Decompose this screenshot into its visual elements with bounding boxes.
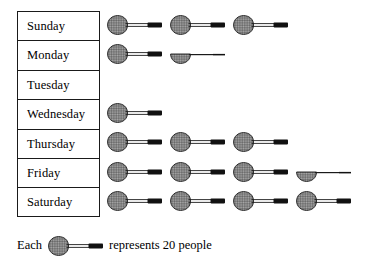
pictograph-row: Monday: [17, 40, 364, 69]
tennis-racket-icon: [106, 15, 169, 37]
pictograph-row: Sunday: [17, 11, 364, 40]
day-label-cell: Wednesday: [17, 99, 100, 128]
day-label-cell: Sunday: [17, 11, 100, 40]
tennis-racket-icon: [169, 162, 232, 184]
tennis-racket-icon: [232, 132, 295, 154]
day-label: Thursday: [27, 138, 75, 151]
tennis-racket-icon: [232, 191, 295, 213]
pictograph-row: Friday: [17, 158, 364, 187]
legend-prefix-text: Each: [17, 239, 42, 252]
tennis-racket-half-icon: [295, 162, 358, 184]
tennis-racket-icon: [106, 44, 169, 66]
tennis-racket-icon: [295, 191, 358, 213]
day-label-cell: Friday: [17, 158, 100, 187]
racket-icon-group: [100, 11, 364, 40]
chart-legend: Each represents 20 people: [17, 236, 212, 254]
day-label: Sunday: [27, 20, 65, 33]
day-label: Wednesday: [27, 108, 85, 121]
day-label: Friday: [27, 167, 60, 180]
pictograph-row: Thursday: [17, 129, 364, 158]
pictograph-row: Wednesday: [17, 99, 364, 128]
racket-icon-group: [100, 158, 364, 187]
tennis-racket-icon: [169, 15, 232, 37]
racket-icon-group: [100, 187, 364, 216]
tennis-racket-icon: [106, 191, 169, 213]
pictograph-row: Tuesday: [17, 70, 364, 99]
racket-icon-group: [100, 129, 364, 158]
tennis-racket-icon: [169, 191, 232, 213]
pictograph-chart: SundayMondayTuesdayWednesdayThursdayFrid…: [17, 11, 364, 217]
tennis-racket-icon: [232, 15, 295, 37]
day-label-cell: Monday: [17, 40, 100, 69]
pictograph-row: Saturday: [17, 187, 364, 216]
tennis-racket-half-icon: [169, 44, 232, 66]
day-label: Saturday: [27, 196, 72, 209]
day-label: Tuesday: [27, 79, 70, 92]
tennis-racket-icon: [106, 103, 169, 125]
tennis-racket-icon: [232, 162, 295, 184]
day-label-cell: Saturday: [17, 187, 100, 216]
legend-suffix-text: represents 20 people: [109, 239, 212, 252]
racket-icon-group: [100, 70, 364, 99]
tennis-racket-icon: [47, 236, 105, 254]
day-label-cell: Tuesday: [17, 70, 100, 99]
day-label: Monday: [27, 49, 69, 62]
racket-icon-group: [100, 99, 364, 128]
day-label-cell: Thursday: [17, 129, 100, 158]
racket-icon-group: [100, 40, 364, 69]
tennis-racket-icon: [106, 162, 169, 184]
tennis-racket-icon: [169, 132, 232, 154]
tennis-racket-icon: [106, 132, 169, 154]
